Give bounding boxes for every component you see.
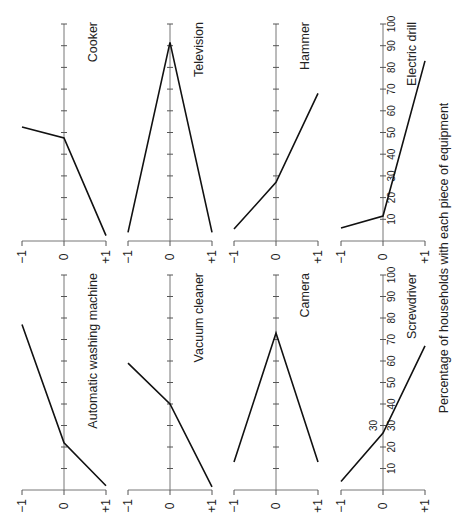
- category-tick-label: 0: [163, 502, 177, 509]
- category-tick-label: +1: [205, 250, 219, 264]
- value-tick-label: 70: [386, 334, 397, 346]
- value-tick-label: 80: [386, 312, 397, 324]
- value-tick-label: 70: [386, 83, 397, 95]
- chart-canvas: −10+1Cooker−10+1Television−10+1Hammer102…: [0, 0, 458, 532]
- category-tick-label: 0: [269, 502, 283, 509]
- value-tick-label: 10: [386, 213, 397, 225]
- category-tick-label: +1: [418, 499, 432, 513]
- panel-title: Automatic washing machine: [86, 273, 100, 429]
- panel-hammer: −10+1Hammer: [227, 22, 325, 264]
- value-tick-label: 80: [386, 61, 397, 73]
- category-tick-label: +1: [205, 499, 219, 513]
- category-tick-label: −1: [334, 250, 348, 264]
- value-tick-label: 100: [386, 266, 397, 283]
- category-tick-label: 0: [376, 253, 390, 260]
- panel-title: Vacuum cleaner: [192, 273, 206, 362]
- panel-vacuum-cleaner: −10+1Vacuum cleaner: [121, 273, 219, 513]
- panel-camera: −10+1Camera: [227, 273, 325, 513]
- category-tick-label: +1: [99, 250, 113, 264]
- panel-title: Cooker: [86, 22, 100, 62]
- panel-title: Screwdriver: [405, 273, 419, 339]
- panel-cooker: −10+1Cooker: [15, 22, 113, 264]
- category-tick-label: −1: [121, 250, 135, 264]
- category-tick-label: −1: [121, 499, 135, 513]
- y-axis-caption: Percentage of households with each piece…: [437, 102, 451, 413]
- value-tick-label: 90: [386, 40, 397, 52]
- panel-television: −10+1Television: [121, 22, 219, 264]
- panel-screwdriver: 102030405060708090100−10+1Screwdriver30: [334, 266, 432, 513]
- panel-title: Hammer: [298, 22, 312, 70]
- value-tick-label: 50: [386, 377, 397, 389]
- category-tick-label: 0: [57, 502, 71, 509]
- panel-automatic-washing-machine: −10+1Automatic washing machine: [15, 273, 113, 513]
- value-tick-label: 40: [386, 148, 397, 160]
- value-tick-label: 10: [386, 463, 397, 475]
- value-tick-label: 60: [386, 355, 397, 367]
- category-tick-label: 0: [376, 502, 390, 509]
- category-tick-label: 0: [57, 253, 71, 260]
- category-tick-label: 0: [163, 253, 177, 260]
- category-tick-label: −1: [15, 250, 29, 264]
- panel-title: Electric drill: [405, 22, 419, 86]
- panel-title: Television: [192, 22, 206, 77]
- category-tick-label: 0: [269, 253, 283, 260]
- category-tick-label: +1: [311, 499, 325, 513]
- category-tick-label: −1: [227, 250, 241, 264]
- value-tick-label: 60: [386, 105, 397, 117]
- category-tick-label: +1: [311, 250, 325, 264]
- category-tick-label: −1: [15, 499, 29, 513]
- panel-electric-drill: 102030405060708090100−10+1Electric drill: [334, 15, 432, 264]
- small-multiples-chart: −10+1Cooker−10+1Television−10+1Hammer102…: [0, 0, 458, 532]
- panel-title: Camera: [298, 273, 312, 318]
- annotation-label: 30: [368, 420, 379, 432]
- value-tick-label: 90: [386, 291, 397, 303]
- value-tick-label: 20: [386, 441, 397, 453]
- category-tick-label: +1: [99, 499, 113, 513]
- value-tick-label: 50: [386, 127, 397, 139]
- category-tick-label: −1: [227, 499, 241, 513]
- category-tick-label: +1: [418, 250, 432, 264]
- value-tick-label: 30: [386, 420, 397, 432]
- value-tick-label: 100: [386, 15, 397, 32]
- panels-group: −10+1Cooker−10+1Television−10+1Hammer102…: [15, 15, 432, 513]
- category-tick-label: −1: [334, 499, 348, 513]
